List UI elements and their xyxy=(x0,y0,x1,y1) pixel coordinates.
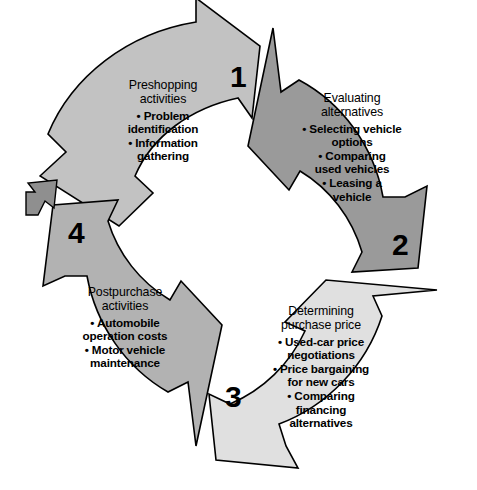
stage-4-heading-line2: activities xyxy=(62,299,188,313)
stage-4-bullet-line: operation costs xyxy=(62,329,188,343)
stage-3-bullet-line: • Price bargaining xyxy=(255,362,387,376)
stage-3-heading: Determining purchase price xyxy=(255,304,387,333)
stage-2-text-block: Evaluating alternatives • Selecting vehi… xyxy=(288,91,416,203)
stage-4-bullet-line: maintenance xyxy=(62,356,188,370)
stage-3-bullet-line: alternatives xyxy=(255,416,387,430)
stage-2-bullet-line: vehicle xyxy=(288,190,416,204)
stage-4-text-block: Postpurchase activities • Automobile ope… xyxy=(62,285,188,370)
stage-3-number: 3 xyxy=(225,382,242,412)
cycle-diagram: Preshopping activities • Problem identif… xyxy=(0,0,477,490)
stage-4-bullet-line: • Motor vehicle xyxy=(62,343,188,357)
stage-2-bullets: • Selecting vehicle options • Comparing … xyxy=(288,122,416,203)
stage-4-heading-line1: Postpurchase xyxy=(62,285,188,299)
stage-3-bullet-line: • Comparing xyxy=(255,389,387,403)
stage-3-text-block: Determining purchase price • Used-car pr… xyxy=(255,304,387,430)
stage-3-bullet-line: financing xyxy=(255,403,387,417)
stage-1-bullets: • Problem identification • Information g… xyxy=(104,109,222,163)
stage-1-bullet-line: • Problem xyxy=(104,109,222,123)
stage-2-bullet-line: • Comparing xyxy=(288,149,416,163)
stage-3-bullet-line: for new cars xyxy=(255,375,387,389)
stage-2-heading-line1: Evaluating xyxy=(288,91,416,105)
stage-4-heading: Postpurchase activities xyxy=(62,285,188,314)
stage-2-bullet-line: • Selecting vehicle xyxy=(288,122,416,136)
stage-1-heading: Preshopping activities xyxy=(104,78,222,107)
stage-2-bullet-line: • Leasing a xyxy=(288,176,416,190)
stage-2-bullet-line: used vehicles xyxy=(288,162,416,176)
stage-1-heading-line2: activities xyxy=(104,92,222,106)
stage-3-bullet-line: negotiations xyxy=(255,348,387,362)
stage-1-bullet-line: gathering xyxy=(104,149,222,163)
stage-4-bullets: • Automobile operation costs • Motor veh… xyxy=(62,316,188,370)
stage-2-bullet-line: options xyxy=(288,135,416,149)
stage-1-number: 1 xyxy=(230,62,247,92)
stage-1-heading-line1: Preshopping xyxy=(104,78,222,92)
stage-1-text-block: Preshopping activities • Problem identif… xyxy=(104,78,222,163)
stage-1-bullet-line: • Information xyxy=(104,136,222,150)
stage-4-number: 4 xyxy=(68,218,85,248)
stage-1-bullet-line: identification xyxy=(104,122,222,136)
stage-3-heading-line1: Determining xyxy=(255,304,387,318)
stage-4-bullet-line: • Automobile xyxy=(62,316,188,330)
stage-3-bullet-line: • Used-car price xyxy=(255,335,387,349)
stage-3-heading-line2: purchase price xyxy=(255,318,387,332)
stage-3-bullets: • Used-car price negotiations • Price ba… xyxy=(255,335,387,430)
stage-2-heading-line2: alternatives xyxy=(288,105,416,119)
stage-2-heading: Evaluating alternatives xyxy=(288,91,416,120)
stage-2-number: 2 xyxy=(392,230,409,260)
